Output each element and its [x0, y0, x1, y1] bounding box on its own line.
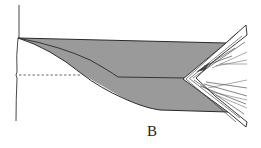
- vertical-axis-line: [16, 5, 19, 121]
- diagram-figure: [0, 0, 261, 148]
- panel-label: B: [147, 124, 157, 139]
